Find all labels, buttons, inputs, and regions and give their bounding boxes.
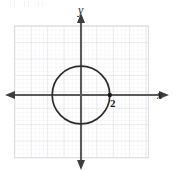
y-axis-arrow-down-icon (77, 160, 85, 170)
y-axis-label: y (77, 3, 84, 17)
coordinate-plane-figure: x y 2 (0, 0, 177, 171)
x-axis-label: x (156, 88, 163, 102)
x-axis-arrow-left-icon (5, 91, 15, 99)
radius-point-label: 2 (110, 97, 116, 109)
graph-canvas: x y 2 (0, 0, 177, 171)
